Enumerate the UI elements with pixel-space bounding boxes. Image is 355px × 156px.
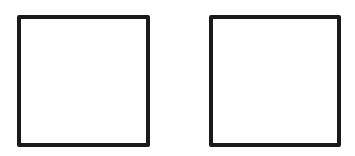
left-square [17, 15, 150, 147]
right-square [209, 15, 341, 147]
